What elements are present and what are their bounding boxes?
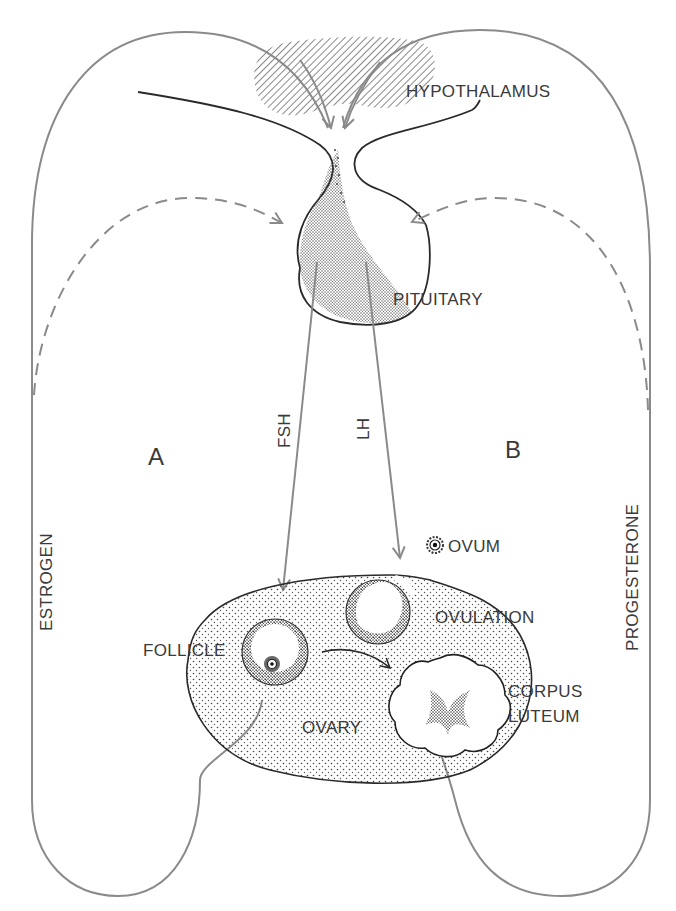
label-ovulation: OVULATION <box>435 608 535 627</box>
label-corpus: CORPUS <box>508 682 583 701</box>
label-fsh: FSH <box>275 413 294 448</box>
label-estrogen: ESTROGEN <box>37 533 56 631</box>
follicle-shape <box>242 619 308 685</box>
label-ovum: OVUM <box>448 537 500 556</box>
hypothalamus-shape <box>254 37 435 116</box>
label-progesterone: PROGESTERONE <box>623 504 642 651</box>
label-loop-b: B <box>505 436 521 463</box>
label-pituitary: PITUITARY <box>393 290 483 309</box>
label-luteum: LUTEUM <box>508 707 580 726</box>
label-follicle: FOLLICLE <box>143 641 226 660</box>
label-loop-a: A <box>148 443 164 470</box>
reproductive-hormone-diagram: HYPOTHALAMUS PITUITARY FSH LH A B ESTROG… <box>0 0 676 911</box>
corpus-luteum-shape <box>389 655 510 757</box>
estrogen-to-pituitary-dashed-pathway <box>34 198 282 395</box>
ovum-icon <box>427 537 443 553</box>
label-ovary: OVARY <box>302 718 361 737</box>
label-hypothalamus: HYPOTHALAMUS <box>406 82 550 101</box>
label-lh: LH <box>354 418 373 440</box>
